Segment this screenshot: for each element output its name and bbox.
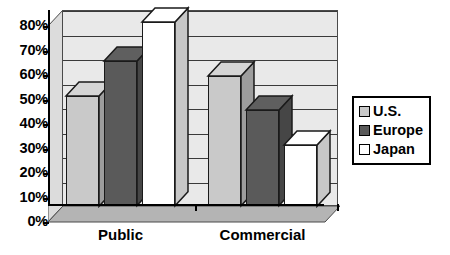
legend-items: U.S.EuropeJapan xyxy=(359,102,423,159)
category-tick xyxy=(337,204,339,211)
bar-front-face xyxy=(104,61,137,206)
y-tick-mark xyxy=(43,222,49,224)
y-tick-mark xyxy=(43,149,49,151)
bar-front-face xyxy=(208,76,241,206)
category-tick xyxy=(195,204,197,211)
bar-top-face xyxy=(208,62,241,76)
legend-label: Europe xyxy=(373,123,423,138)
bar-chart: 0%10%20%30%40%50%60%70%80% U.S.EuropeJap… xyxy=(0,0,450,255)
y-tick-label: 30% xyxy=(4,141,48,156)
bar-front-face xyxy=(142,22,175,206)
y-tick-mark xyxy=(43,75,49,77)
y-tick-label: 20% xyxy=(4,165,48,180)
legend-item[interactable]: Japan xyxy=(359,140,423,159)
y-tick-label: 70% xyxy=(4,43,48,58)
y-tick-label: 10% xyxy=(4,190,48,205)
y-axis-line xyxy=(48,10,50,206)
y-tick-label: 60% xyxy=(4,67,48,82)
bar-front-face xyxy=(246,110,279,206)
bars-layer xyxy=(48,10,338,222)
legend-swatch-icon xyxy=(359,106,370,117)
bar-europe-public xyxy=(104,61,137,206)
y-tick-mark xyxy=(43,173,49,175)
y-tick-label: 80% xyxy=(4,18,48,33)
category-label: Public xyxy=(51,226,191,243)
chart-legend: U.S.EuropeJapan xyxy=(352,96,431,165)
bar-us-public xyxy=(66,96,99,206)
y-tick-mark xyxy=(43,26,49,28)
bar-front-face xyxy=(284,145,317,206)
x-axis-line xyxy=(48,204,324,206)
bar-us-commercial xyxy=(208,76,241,206)
category-label: Commercial xyxy=(193,226,333,243)
y-tick-mark xyxy=(43,51,49,53)
bar-top-face xyxy=(66,82,99,96)
bar-side-face xyxy=(175,8,188,206)
y-axis: 0%10%20%30%40%50%60%70%80% xyxy=(4,0,48,255)
legend-label: U.S. xyxy=(373,104,401,119)
bar-japan-public xyxy=(142,22,175,206)
y-tick-mark xyxy=(43,124,49,126)
bar-japan-commercial xyxy=(284,145,317,206)
plot-area xyxy=(48,10,338,222)
bar-front-face xyxy=(66,96,99,206)
bar-top-face xyxy=(246,96,279,110)
legend-label: Japan xyxy=(373,142,415,157)
y-tick-mark xyxy=(43,198,49,200)
legend-swatch-icon xyxy=(359,144,370,155)
bar-top-face xyxy=(284,131,317,145)
bar-europe-commercial xyxy=(246,110,279,206)
y-tick-mark xyxy=(43,100,49,102)
legend-item[interactable]: U.S. xyxy=(359,102,423,121)
legend-item[interactable]: Europe xyxy=(359,121,423,140)
y-tick-label: 40% xyxy=(4,116,48,131)
bar-top-face xyxy=(142,8,175,22)
bar-top-face xyxy=(104,47,137,61)
y-tick-label: 50% xyxy=(4,92,48,107)
y-tick-label: 0% xyxy=(4,214,48,229)
legend-swatch-icon xyxy=(359,125,370,136)
